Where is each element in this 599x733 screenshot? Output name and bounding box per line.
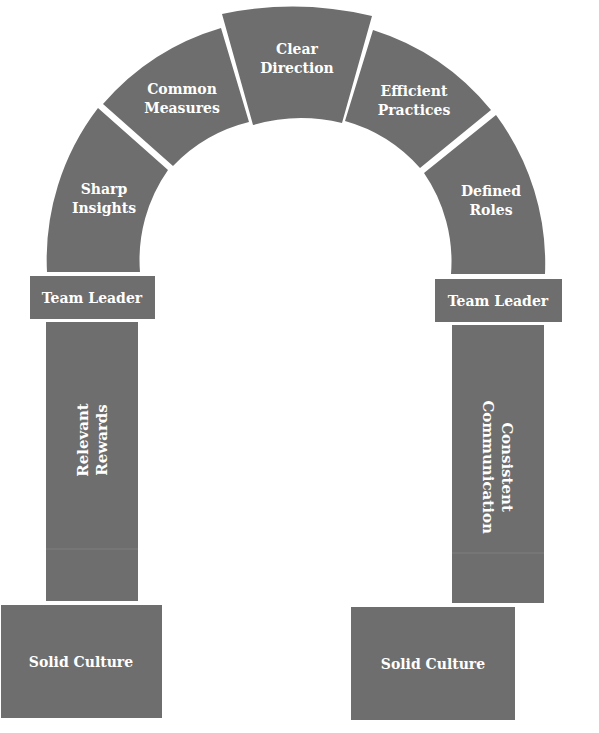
svg-text:Clear: Clear [276, 41, 318, 57]
segment-label-line2: Direction [260, 60, 334, 76]
svg-text:Defined: Defined [461, 183, 521, 199]
svg-text:Common: Common [147, 81, 217, 97]
svg-text:Roles: Roles [469, 202, 512, 218]
capital-label: Team Leader [448, 293, 549, 309]
capital-label: Team Leader [42, 290, 143, 306]
arch-diagram: Sharp Insights Common Measures Clear Dir… [0, 0, 599, 733]
right-capital-team-leader: Team Leader [435, 279, 562, 322]
svg-text:Practices: Practices [378, 102, 451, 118]
svg-text:Measures: Measures [144, 100, 220, 116]
base-label: Solid Culture [29, 654, 133, 670]
svg-text:Sharp: Sharp [81, 181, 128, 197]
segment-label-line2: Insights [72, 200, 136, 216]
pillar-label-line1: Relevant [74, 403, 92, 477]
segment-label-line1: Efficient [381, 83, 448, 99]
base-label: Solid Culture [381, 656, 485, 672]
pillar-label-line1: Consistent [498, 422, 516, 512]
right-base-solid-culture: Solid Culture [351, 607, 515, 720]
pillar-label-line2: Rewards [93, 404, 111, 475]
left-base-solid-culture: Solid Culture [1, 605, 162, 718]
segment-label-line1: Clear [276, 41, 318, 57]
pillar-label-line2: Communication [479, 400, 497, 534]
segment-label-line2: Roles [469, 202, 512, 218]
segment-label-line2: Measures [144, 100, 220, 116]
svg-text:Efficient: Efficient [381, 83, 448, 99]
svg-text:Insights: Insights [72, 200, 136, 216]
segment-label-line1: Defined [461, 183, 521, 199]
segment-label-line1: Sharp [81, 181, 128, 197]
left-capital-team-leader: Team Leader [30, 276, 155, 319]
right-pillar-consistent-communication: Consistent Communication [452, 325, 544, 603]
left-pillar-relevant-rewards: Relevant Rewards [46, 322, 138, 601]
segment-label-line1: Common [147, 81, 217, 97]
svg-text:Direction: Direction [260, 60, 334, 76]
segment-label-line2: Practices [378, 102, 451, 118]
